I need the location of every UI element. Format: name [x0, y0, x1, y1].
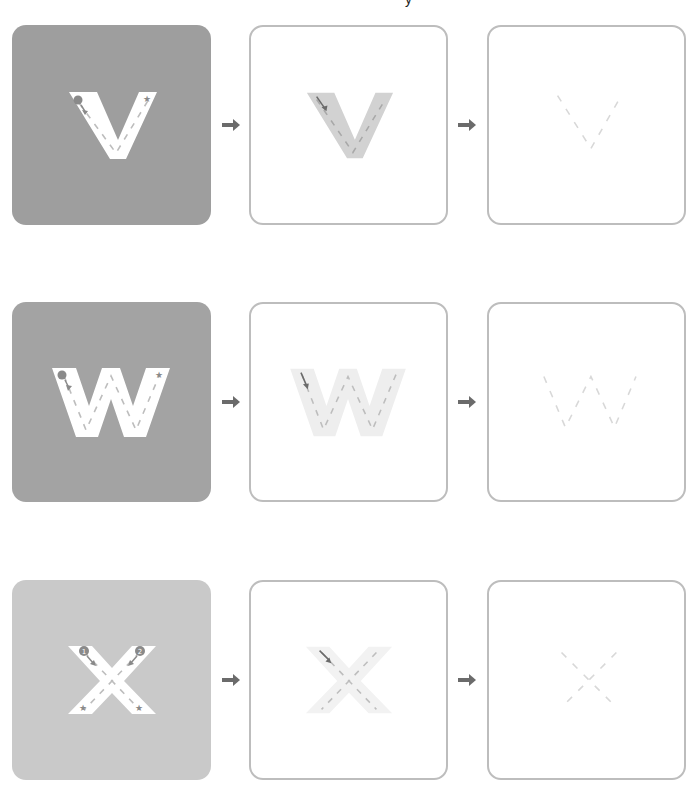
letter-x-guided-icon: 1 2 ★ ★: [12, 580, 211, 780]
row-letter-v: ★: [0, 25, 700, 225]
letter-w-guided-icon: ★: [12, 302, 211, 502]
card-v-shaded[interactable]: [249, 25, 448, 225]
row-letter-x: 1 2 ★ ★: [0, 580, 700, 780]
svg-text:★: ★: [155, 370, 163, 380]
arrow-right-icon: [456, 117, 480, 133]
card-w-guided[interactable]: ★: [12, 302, 211, 502]
letter-x-shaded-icon: [251, 582, 446, 778]
stroke-number-1: 1: [82, 648, 86, 656]
arrow-right-icon: [456, 672, 480, 688]
row-letter-w: ★: [0, 302, 700, 502]
svg-text:★: ★: [135, 703, 143, 713]
letter-v-guided-icon: ★: [12, 25, 211, 225]
card-w-dashed[interactable]: [487, 302, 686, 502]
svg-text:★: ★: [143, 94, 151, 104]
arrow-right-icon: [220, 672, 244, 688]
card-x-shaded[interactable]: [249, 580, 448, 780]
card-x-dashed[interactable]: [487, 580, 686, 780]
letter-v-shaded-icon: [251, 27, 446, 223]
stroke-number-2: 2: [138, 648, 142, 656]
letter-w-dashed-icon: [489, 304, 684, 500]
card-w-shaded[interactable]: [249, 302, 448, 502]
arrow-right-icon: [456, 394, 480, 410]
arrow-right-icon: [220, 394, 244, 410]
card-v-guided[interactable]: ★: [12, 25, 211, 225]
card-v-dashed[interactable]: [487, 25, 686, 225]
letter-x-dashed-icon: [489, 582, 684, 778]
arrow-right-icon: [220, 117, 244, 133]
card-x-guided[interactable]: 1 2 ★ ★: [12, 580, 211, 780]
clipped-title-text: y: [405, 0, 412, 7]
svg-text:★: ★: [79, 703, 87, 713]
letter-w-shaded-icon: [251, 304, 446, 500]
letter-v-dashed-icon: [489, 27, 684, 223]
